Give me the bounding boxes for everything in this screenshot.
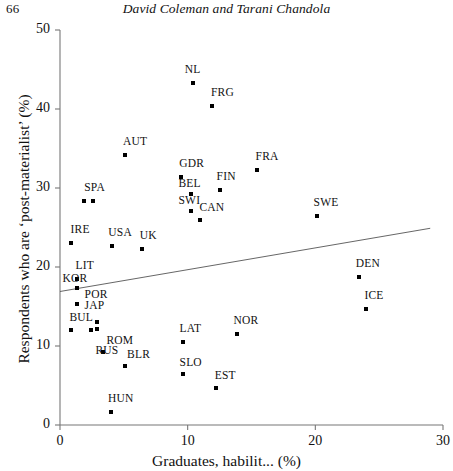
data-point <box>357 275 361 279</box>
y-tick-label: 10 <box>16 337 50 353</box>
data-point <box>89 328 93 332</box>
data-point-label: DEN <box>356 257 380 269</box>
data-point-label: RUS <box>95 344 118 356</box>
x-tick-label: 20 <box>295 433 335 449</box>
data-point-label: NOR <box>233 314 258 326</box>
data-point-label: EST <box>215 369 236 381</box>
data-point-label: FRG <box>211 86 234 98</box>
data-point <box>191 81 195 85</box>
data-point <box>123 153 127 157</box>
data-point <box>91 199 95 203</box>
y-axis-title: Respondents who are ‘post-materialist’ (… <box>15 29 33 429</box>
data-point <box>82 199 86 203</box>
data-point <box>364 307 368 311</box>
data-point <box>95 327 99 331</box>
data-point <box>189 209 193 213</box>
y-tick-label: 0 <box>16 416 50 432</box>
data-point <box>123 364 127 368</box>
data-point-label: BLR <box>127 348 150 360</box>
data-point-label: USA <box>108 226 132 238</box>
data-point-label: CAN <box>199 201 224 213</box>
data-point-label: LIT <box>76 259 94 271</box>
data-point <box>315 214 319 218</box>
data-point <box>218 188 222 192</box>
data-point <box>181 372 185 376</box>
data-point <box>210 104 214 108</box>
data-point <box>75 302 79 306</box>
x-axis-title: Graduates, habilit... (%) <box>0 452 453 470</box>
data-point <box>75 286 79 290</box>
x-tick-label: 0 <box>40 433 80 449</box>
data-point-label: ICE <box>364 289 383 301</box>
data-point-label: NL <box>185 63 201 75</box>
data-point-label: FRA <box>256 150 279 162</box>
data-point-label: GDR <box>179 157 204 169</box>
data-point-label: KOR <box>63 272 88 284</box>
data-point-label: SLO <box>180 356 202 368</box>
data-point <box>198 218 202 222</box>
data-point <box>110 244 114 248</box>
data-point-label: LAT <box>180 322 202 334</box>
data-point <box>181 340 185 344</box>
y-tick-label: 40 <box>16 100 50 116</box>
data-point <box>109 410 113 414</box>
data-point <box>214 386 218 390</box>
data-point <box>69 328 73 332</box>
x-tick-label: 30 <box>423 433 453 449</box>
data-point-label: BUL <box>69 311 93 323</box>
data-point-label: SWI <box>178 194 200 206</box>
y-tick-label: 50 <box>16 21 50 37</box>
scatter-chart: Respondents who are ‘post-materialist’ (… <box>0 20 453 471</box>
data-point <box>95 320 99 324</box>
running-head: 66 David Coleman and Tarani Chandola <box>0 0 453 20</box>
data-point <box>69 241 73 245</box>
data-point-label: BEL <box>178 177 200 189</box>
y-tick-label: 20 <box>16 258 50 274</box>
data-point <box>255 168 259 172</box>
data-point <box>140 247 144 251</box>
data-point-label: SWE <box>314 196 339 208</box>
data-point-label: HUN <box>108 392 134 404</box>
running-head-title: David Coleman and Tarani Chandola <box>0 1 453 17</box>
x-tick-label: 10 <box>168 433 208 449</box>
data-point-label: UK <box>140 229 157 241</box>
data-point <box>235 332 239 336</box>
data-point-label: FIN <box>217 170 236 182</box>
y-tick-label: 30 <box>16 179 50 195</box>
data-point-label: IRE <box>70 223 89 235</box>
data-point-label: SPA <box>84 181 105 193</box>
data-point-label: AUT <box>123 135 147 147</box>
data-point-label: JAP <box>85 299 105 311</box>
